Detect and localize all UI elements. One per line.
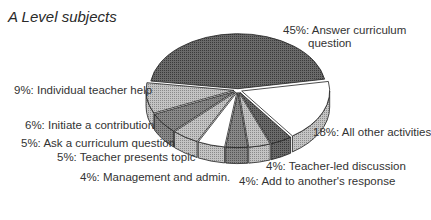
label-teacher-led: 4%: Teacher-led discussion	[266, 160, 406, 173]
label-initiate: 6%: Initiate a contribution	[25, 119, 154, 132]
label-answer-curriculum-line2: question	[308, 37, 351, 50]
label-teacher-presents: 5%: Teacher presents topic	[57, 151, 196, 164]
label-management: 4%: Management and admin.	[80, 171, 230, 184]
label-add-to-response: 4%: Add to another's response	[239, 175, 395, 188]
label-individual-help: 9%: Individual teacher help	[14, 84, 152, 97]
label-ask-question: 5%: Ask a curriculum question	[21, 137, 175, 150]
label-all-other: 18%: All other activities	[313, 126, 431, 139]
label-answer-curriculum: 45%: Answer curriculum	[283, 24, 406, 37]
pie-slice-0	[151, 34, 325, 89]
